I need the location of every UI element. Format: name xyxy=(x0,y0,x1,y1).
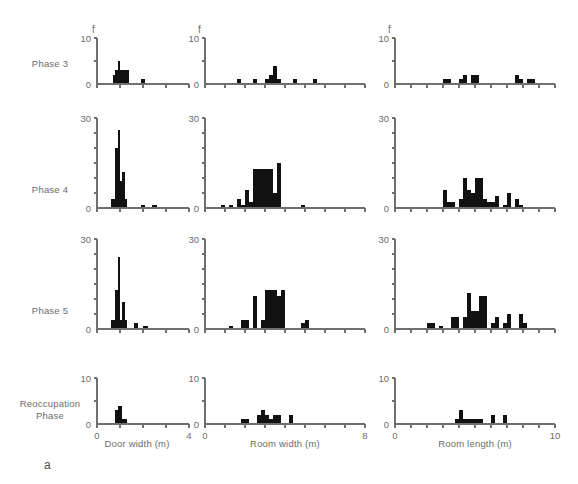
y-axis-tick-label: 0 xyxy=(86,324,91,335)
histogram-bar xyxy=(245,419,249,424)
bar-series xyxy=(427,293,527,329)
bar-series xyxy=(443,75,535,84)
histogram-bar xyxy=(118,61,120,84)
y-axis-tick-label: 30 xyxy=(188,234,199,245)
histogram-bar xyxy=(301,323,305,329)
histogram-bar xyxy=(269,419,273,424)
histogram-bar xyxy=(463,317,467,329)
histogram-bar xyxy=(495,196,499,208)
histogram-bar xyxy=(125,320,127,329)
histogram-bar xyxy=(487,202,491,208)
y-axis-tick-label: 0 xyxy=(194,419,199,430)
histogram-bar xyxy=(459,79,463,84)
histogram-bar xyxy=(241,419,245,424)
histogram-bar xyxy=(475,75,479,84)
histogram-bar xyxy=(115,70,117,84)
histogram-plot: 010 xyxy=(365,28,569,110)
histogram-bar xyxy=(479,419,483,424)
histogram-bar xyxy=(471,193,475,208)
histogram-panel: 010 xyxy=(175,28,379,110)
bar-series xyxy=(221,163,305,208)
histogram-bar xyxy=(120,181,122,208)
histogram-bar xyxy=(451,202,455,208)
axis-title-door-width: Door width (m) xyxy=(72,438,202,449)
histogram-bar xyxy=(475,419,479,424)
histogram-bar xyxy=(245,190,249,208)
histogram-bar xyxy=(257,169,261,208)
histogram-bar xyxy=(527,79,531,84)
histogram-bar xyxy=(455,419,459,424)
histogram-bar xyxy=(451,317,455,329)
histogram-plot: 030 xyxy=(175,229,379,355)
histogram-bar xyxy=(519,314,523,329)
y-axis-tick-label: 0 xyxy=(86,79,91,90)
histogram-bar xyxy=(491,323,495,329)
y-axis-tick-label: 0 xyxy=(384,324,389,335)
histogram-bar xyxy=(111,320,113,329)
histogram-bar xyxy=(111,199,113,208)
histogram-bar xyxy=(483,296,487,329)
figure-part-letter: a xyxy=(44,458,51,472)
histogram-panel: 010 xyxy=(365,28,569,110)
bar-series xyxy=(455,410,507,424)
y-axis-tick-label: 10 xyxy=(188,373,199,384)
histogram-bar xyxy=(122,172,124,208)
histogram-panel: 030 xyxy=(365,229,569,355)
histogram-bar xyxy=(261,169,265,208)
histogram-panel: 030 xyxy=(175,108,379,234)
histogram-bar xyxy=(253,79,257,84)
histogram-bar xyxy=(503,323,507,329)
histogram-bar xyxy=(265,415,269,424)
histogram-bar xyxy=(113,320,115,329)
histogram-bar xyxy=(141,79,143,84)
y-axis-tick-label: 30 xyxy=(378,234,389,245)
histogram-bar xyxy=(447,79,451,84)
histogram-bar xyxy=(471,75,475,84)
histogram-bar xyxy=(265,169,269,208)
histogram-bar xyxy=(125,199,127,208)
bar-series xyxy=(115,406,126,424)
histogram-bar xyxy=(118,257,120,329)
histogram-bar xyxy=(277,415,281,424)
histogram-bar xyxy=(459,199,463,208)
y-axis-tick-label: 0 xyxy=(86,419,91,430)
y-axis-tick-label: 10 xyxy=(80,373,91,384)
histogram-bar xyxy=(122,302,124,329)
histogram-bar xyxy=(253,169,257,208)
histogram-bar xyxy=(463,75,467,84)
histogram-bar xyxy=(463,419,467,424)
x-axis-tick-label: 0 xyxy=(202,430,207,441)
axis-lines xyxy=(205,378,365,424)
histogram-bar xyxy=(515,75,519,84)
histogram-bar xyxy=(455,317,459,329)
histogram-bar xyxy=(265,79,269,84)
histogram-bar xyxy=(467,419,471,424)
histogram-bar xyxy=(427,323,431,329)
axis-title-room-length: Room length (m) xyxy=(405,438,545,449)
histogram-bar xyxy=(507,314,511,329)
histogram-bar xyxy=(519,79,523,84)
y-axis-tick-label: 10 xyxy=(378,373,389,384)
histogram-bar xyxy=(471,419,475,424)
histogram-bar xyxy=(125,70,127,84)
histogram-bar xyxy=(273,290,277,329)
histogram-bar xyxy=(443,79,447,84)
x-axis-tick-label: 0 xyxy=(392,430,397,441)
y-axis-tick-label: 30 xyxy=(378,113,389,124)
histogram-bar xyxy=(115,148,117,208)
histogram-bar xyxy=(120,70,122,84)
histogram-bar xyxy=(113,75,115,84)
histogram-bar xyxy=(273,193,277,208)
y-axis-tick-label: 0 xyxy=(86,203,91,214)
histogram-bar xyxy=(269,290,273,329)
histogram-bar xyxy=(281,290,285,329)
histogram-bar xyxy=(125,419,127,424)
histogram-bar xyxy=(237,79,241,84)
histogram-bar xyxy=(127,70,129,84)
axis-lines xyxy=(205,38,365,84)
histogram-bar xyxy=(277,163,281,208)
histogram-bar xyxy=(523,323,527,329)
histogram-bar xyxy=(289,415,293,424)
axis-title-room-width: Room width (m) xyxy=(215,438,355,449)
histogram-panel: 030 xyxy=(365,108,569,234)
